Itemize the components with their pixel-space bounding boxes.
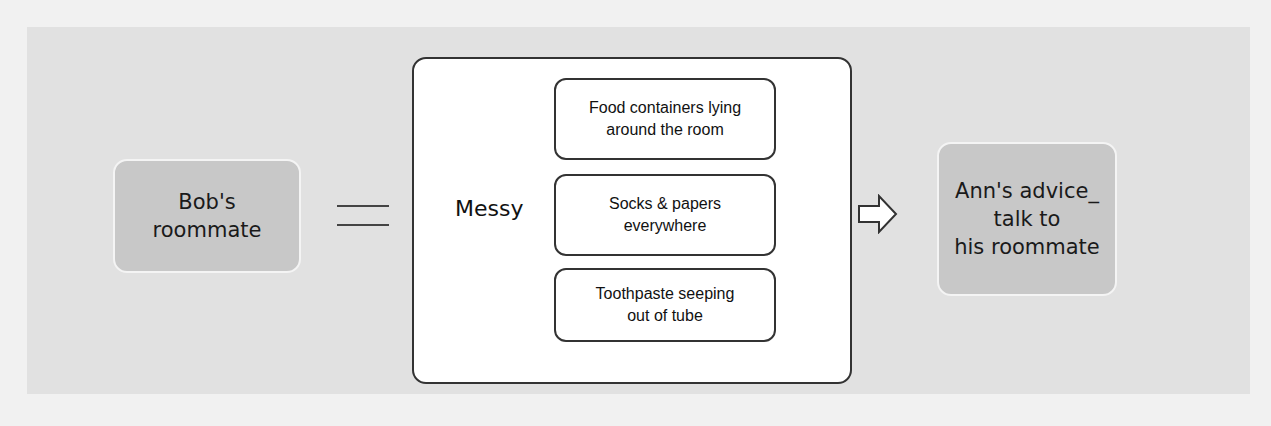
- ann-label-line3: his roommate: [954, 233, 1100, 261]
- messy-item: Socks & papers everywhere: [554, 174, 776, 256]
- equals-icon-bottom: [337, 224, 389, 226]
- bob-label-line1: Bob's: [153, 188, 262, 216]
- arrow-right-icon: [857, 194, 899, 234]
- messy-item: Food containers lying around the room: [554, 78, 776, 160]
- equals-icon: [337, 205, 389, 207]
- item-text: out of tube: [596, 305, 735, 327]
- item-text: everywhere: [609, 215, 721, 237]
- item-text: around the room: [589, 119, 741, 141]
- messy-label: Messy: [455, 196, 523, 221]
- item-text: Socks & papers: [609, 193, 721, 215]
- bobs-roommate-node: Bob's roommate: [113, 159, 301, 273]
- bob-label-line2: roommate: [153, 216, 262, 244]
- ann-label-line2: talk to: [954, 205, 1100, 233]
- item-text: Food containers lying: [589, 97, 741, 119]
- messy-item: Toothpaste seeping out of tube: [554, 268, 776, 342]
- item-text: Toothpaste seeping: [596, 283, 735, 305]
- anns-advice-node: Ann's advice_ talk to his roommate: [937, 142, 1117, 296]
- ann-label-line1: Ann's advice_: [954, 177, 1100, 205]
